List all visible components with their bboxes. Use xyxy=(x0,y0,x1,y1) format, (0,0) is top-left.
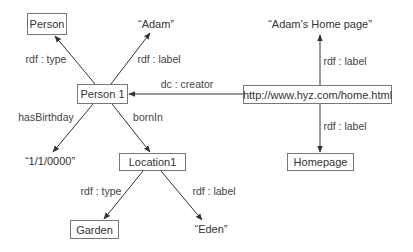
node-person: Person xyxy=(27,13,67,35)
edge-label-rdf-label-up: rdf : label xyxy=(323,55,366,67)
node-garden: Garden xyxy=(70,220,119,239)
edge-label-born-in: bornIn xyxy=(133,111,163,123)
node-location1: Location1 xyxy=(119,153,186,171)
edge-label-rdf-label-eden: rdf : label xyxy=(192,185,235,197)
literal-eden: “Eden” xyxy=(194,223,227,235)
edge-label-rdf-label-adam: rdf : label xyxy=(137,53,180,65)
node-url: http://www.hyz.com/home.html xyxy=(243,85,392,104)
edge-label-rdf-label-down: rdf : label xyxy=(323,120,366,132)
literal-birthday: “1/1/0000” xyxy=(25,155,75,167)
edge-label-rdf-type-garden: rdf : type xyxy=(81,185,122,197)
edge-label-dc-creator: dc : creator xyxy=(161,78,214,90)
edge-label-has-birthday: hasBirthday xyxy=(18,111,73,123)
literal-adams-home-page: “Adam’s Home page” xyxy=(268,18,372,30)
literal-adam: “Adam” xyxy=(138,18,174,30)
node-person-1: Person 1 xyxy=(77,84,128,104)
node-homepage: Homepage xyxy=(287,153,354,171)
edge-label-rdf-type-person: rdf : type xyxy=(26,53,67,65)
